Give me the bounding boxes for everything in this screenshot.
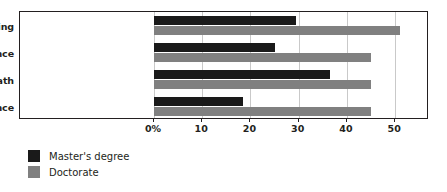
legend-swatch <box>28 166 40 178</box>
bar-masters <box>154 97 243 106</box>
bar-masters <box>154 16 296 25</box>
x-tick-label: 20 <box>243 123 256 134</box>
bar-doctorate <box>154 26 400 35</box>
x-tick-label: 50 <box>388 123 401 134</box>
bar-masters <box>154 43 275 52</box>
x-tick-label: 0% <box>145 123 161 134</box>
tick-mark <box>394 119 395 122</box>
tick-mark <box>346 119 347 122</box>
tick-mark <box>153 119 154 122</box>
legend-label: Doctorate <box>49 167 99 178</box>
legend-label: Master's degree <box>49 151 129 162</box>
tick-mark <box>298 119 299 122</box>
x-tick-label: 10 <box>195 123 208 134</box>
bar-doctorate <box>154 80 371 89</box>
x-tick-label: 40 <box>339 123 352 134</box>
bar-group: Physical Science <box>20 39 427 66</box>
chart-legend: Master's degreeDoctorate <box>28 148 129 180</box>
tick-mark <box>201 119 202 122</box>
bar-group: Engineering <box>20 12 427 39</box>
bar-group: Computer Science/Math <box>20 66 427 93</box>
x-axis: 0%1020304050 <box>19 119 428 145</box>
bar-group: Life Science <box>20 93 427 120</box>
bar-rows: EngineeringPhysical ScienceComputer Scie… <box>20 12 427 118</box>
category-label: Life Science <box>0 101 20 112</box>
plot-area: EngineeringPhysical ScienceComputer Scie… <box>19 11 428 119</box>
x-tick-label: 30 <box>291 123 304 134</box>
bar-doctorate <box>154 107 371 116</box>
category-label: Engineering <box>0 20 20 31</box>
legend-item: Doctorate <box>28 164 129 180</box>
bar-masters <box>154 70 330 79</box>
tick-mark <box>249 119 250 122</box>
bar-chart: EngineeringPhysical ScienceComputer Scie… <box>0 0 447 192</box>
category-label: Physical Science <box>0 47 20 58</box>
category-label: Computer Science/Math <box>0 74 20 85</box>
legend-item: Master's degree <box>28 148 129 164</box>
bar-doctorate <box>154 53 371 62</box>
legend-swatch <box>28 150 40 162</box>
